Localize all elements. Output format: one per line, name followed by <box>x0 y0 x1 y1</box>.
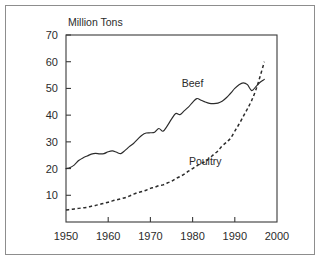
line-chart: 10203040506070 195019601970198019902000 … <box>0 0 321 261</box>
y-tick-label: 20 <box>46 163 58 175</box>
series-label-beef: Beef <box>182 77 204 89</box>
y-axis-ticks: 10203040506070 <box>46 29 71 201</box>
x-tick-label: 1980 <box>180 230 204 242</box>
x-tick-label: 1990 <box>223 230 247 242</box>
x-tick-label: 1960 <box>96 230 120 242</box>
y-tick-label: 70 <box>46 29 58 41</box>
series-line-poultry <box>66 62 264 210</box>
plot-area-box <box>66 35 277 222</box>
x-tick-label: 2000 <box>265 230 289 242</box>
x-axis-ticks: 195019601970198019902000 <box>54 217 289 242</box>
x-tick-label: 1970 <box>138 230 162 242</box>
y-tick-label: 50 <box>46 82 58 94</box>
chart-figure: 10203040506070 195019601970198019902000 … <box>0 0 321 261</box>
y-tick-label: 10 <box>46 189 58 201</box>
y-tick-label: 60 <box>46 56 58 68</box>
series-line-beef <box>66 79 264 168</box>
y-tick-label: 40 <box>46 109 58 121</box>
y-tick-label: 30 <box>46 136 58 148</box>
y-axis-title: Million Tons <box>68 16 123 28</box>
series-label-poultry: Poultry <box>189 155 222 167</box>
x-tick-label: 1950 <box>54 230 78 242</box>
